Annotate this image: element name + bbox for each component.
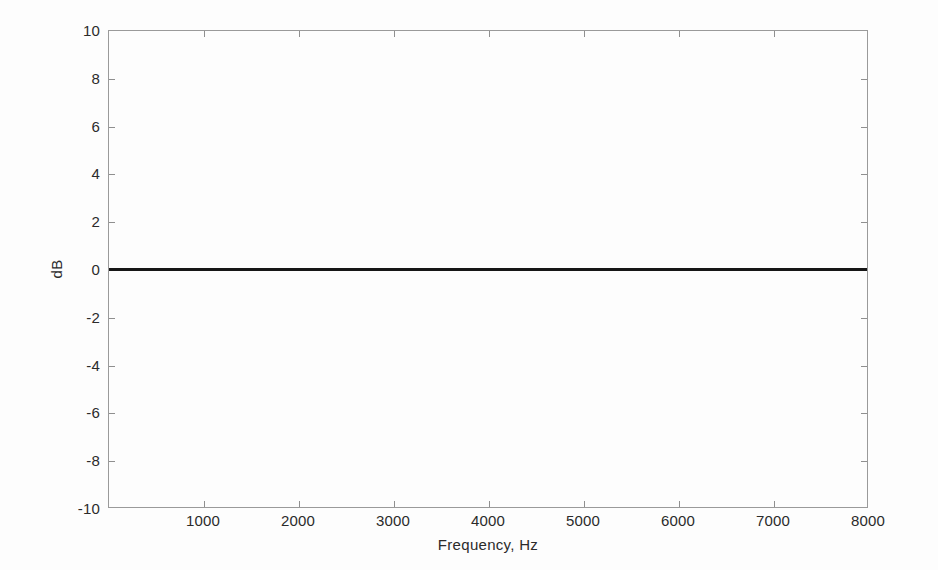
x-tick-label: 5000 — [566, 512, 600, 529]
x-tick-label: 6000 — [661, 512, 695, 529]
x-tick-label: 3000 — [376, 512, 410, 529]
y-tick-label: 0 — [91, 261, 100, 278]
series-layer — [109, 31, 867, 507]
y-tick-label: 8 — [91, 69, 100, 86]
figure-canvas: dB Frequency, Hz 10 8 6 4 2 0 -2 -4 -6 -… — [0, 0, 938, 570]
x-tick-label: 7000 — [756, 512, 790, 529]
x-tick-label: 1000 — [186, 512, 220, 529]
y-tick-label: -10 — [78, 500, 100, 517]
y-tick-label: -4 — [86, 356, 100, 373]
y-tick-label: -6 — [86, 404, 100, 421]
y-tick-label: -8 — [86, 452, 100, 469]
plot-area — [108, 30, 868, 508]
data-line-flat-response — [109, 268, 867, 271]
x-tick-label: 2000 — [281, 512, 315, 529]
x-tick-label: 4000 — [471, 512, 505, 529]
y-tick-label: 2 — [91, 213, 100, 230]
y-tick-label: 4 — [91, 165, 100, 182]
y-tick-label: 6 — [91, 117, 100, 134]
y-tick-label: 10 — [83, 22, 100, 39]
x-axis-title: Frequency, Hz — [438, 536, 538, 553]
y-axis-title: dB — [48, 260, 65, 279]
x-tick-label: 8000 — [851, 512, 885, 529]
y-tick-label: -2 — [86, 308, 100, 325]
